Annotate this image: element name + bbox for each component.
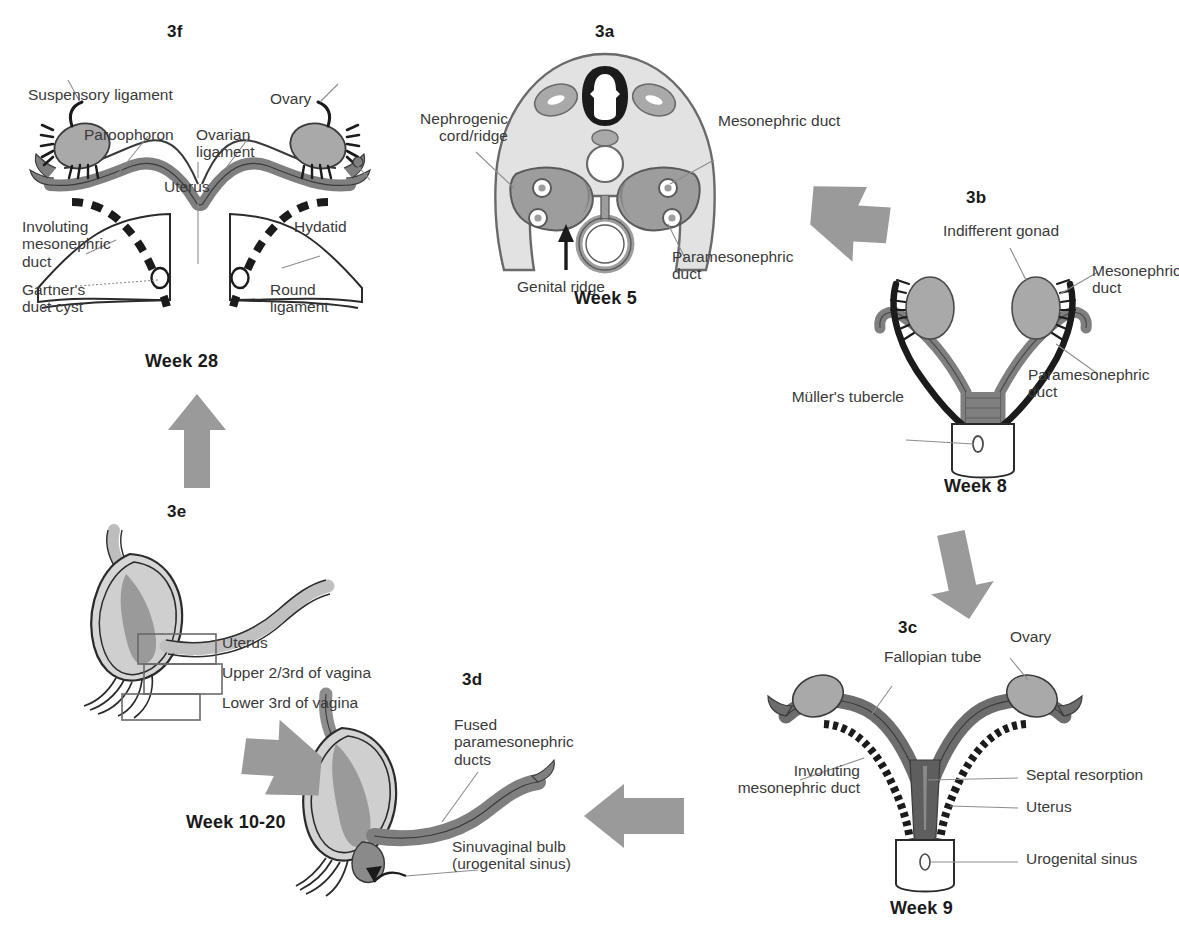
label-hydatid: Hydatid: [294, 218, 384, 235]
label-gartners-duct-cyst: Gartner's duct cyst: [22, 281, 132, 316]
label-round-ligament: Round ligament: [270, 281, 370, 316]
label-paramesonephric-duct-3a: Paramesonephric duct: [672, 248, 812, 283]
label-uterus-3e: Uterus: [222, 634, 312, 651]
label-upper-vagina: Upper 2/3rd of vagina: [222, 664, 412, 681]
label-paramesonephric-duct-3b: Paramesonephric duct: [1028, 366, 1158, 401]
label-involuting-mesonephric-duct-3f: Involuting mesonephric duct: [22, 218, 142, 270]
panel-label-3b: 3b: [966, 188, 986, 208]
week-label-3c: Week 9: [890, 898, 953, 919]
label-ovarian-ligament: Ovarian ligament: [196, 126, 288, 161]
label-suspensory-ligament: Suspensory ligament: [28, 86, 208, 103]
panel-label-3c: 3c: [898, 618, 917, 638]
panel-3b: [848, 232, 1118, 462]
label-uterus-3f: Uterus: [164, 178, 234, 195]
label-septal-resorption: Septal resorption: [1026, 766, 1176, 783]
label-paroophoron: Paroophoron: [84, 126, 214, 143]
label-uterus-3c: Uterus: [1026, 798, 1116, 815]
week-label-3f: Week 28: [145, 351, 218, 372]
label-sinuvaginal-bulb: Sinuvaginal bulb (urogenital sinus): [452, 838, 612, 873]
label-fallopian-tube: Fallopian tube: [884, 648, 1004, 665]
week-label-3b: Week 8: [944, 476, 1007, 497]
panel-3e: [82, 528, 382, 718]
week-label-3a: Week 5: [574, 288, 637, 309]
arrow-d-to-e: [236, 716, 346, 806]
panel-label-3d: 3d: [462, 670, 482, 690]
label-indifferent-gonad: Indifferent gonad: [906, 222, 1096, 239]
label-mullers-tubercle: Müller's tubercle: [756, 388, 904, 405]
panel-label-3a: 3a: [595, 22, 614, 42]
arrow-b-to-c: [922, 526, 1002, 626]
label-fused-paramesonephric-ducts: Fused paramesonephric ducts: [454, 716, 584, 768]
label-mesonephric-duct-3a: Mesonephric duct: [718, 112, 878, 129]
label-ovary-3c: Ovary: [1010, 628, 1080, 645]
label-lower-vagina: Lower 3rd of vagina: [222, 694, 412, 711]
week-label-3e: Week 10-20: [186, 812, 286, 833]
panel-label-3f: 3f: [167, 22, 183, 42]
label-ovary-3f: Ovary: [270, 90, 340, 107]
label-urogenital-sinus: Urogenital sinus: [1026, 850, 1166, 867]
label-involuting-mesonephric-duct-3c: Involuting mesonephric duct: [712, 762, 860, 797]
figure-canvas: 3f: [0, 0, 1179, 938]
label-nephrogenic-cord-ridge: Nephrogenic cord/ridge: [398, 110, 508, 145]
panel-label-3e: 3e: [167, 502, 186, 522]
label-mesonephric-duct-3b: Mesonephric duct: [1092, 262, 1176, 297]
arrow-e-to-f: [162, 392, 232, 492]
